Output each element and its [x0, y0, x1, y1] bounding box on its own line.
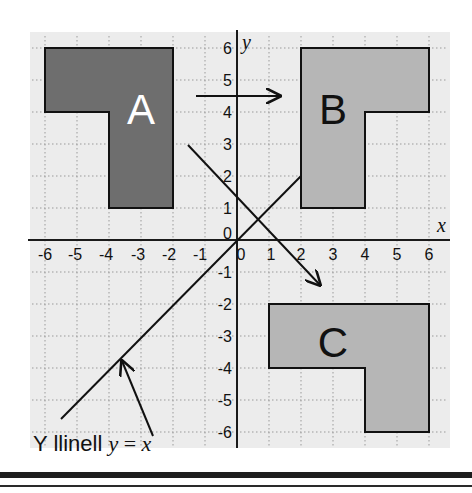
shape-c-label: C — [318, 319, 348, 366]
x-axis-label: x — [436, 214, 446, 236]
divider-thin — [0, 485, 472, 487]
y-axis-label: y — [240, 31, 251, 54]
svg-text:-6: -6 — [38, 246, 52, 263]
divider-thick — [0, 472, 472, 478]
svg-text:3: 3 — [329, 246, 338, 263]
svg-text:0: 0 — [223, 225, 232, 242]
coordinate-diagram: A B C x y -6 -5 -4 -3 -2 -1 0 1 2 3 4 5 … — [0, 0, 472, 493]
svg-text:-4: -4 — [218, 360, 232, 377]
svg-text:5: 5 — [393, 246, 402, 263]
svg-text:0: 0 — [237, 246, 246, 263]
svg-text:-5: -5 — [218, 392, 232, 409]
svg-text:1: 1 — [223, 200, 232, 217]
svg-text:6: 6 — [223, 40, 232, 57]
mirror-line-label-x: x — [141, 431, 152, 456]
svg-text:-2: -2 — [218, 296, 232, 313]
svg-text:-3: -3 — [131, 246, 145, 263]
svg-text:1: 1 — [267, 246, 276, 263]
svg-text:4: 4 — [223, 104, 232, 121]
shape-a-label: A — [127, 86, 155, 133]
svg-text:-5: -5 — [68, 246, 82, 263]
shape-b-label: B — [319, 86, 347, 133]
mirror-line-label-prefix: Y llinell — [33, 431, 108, 456]
svg-text:-4: -4 — [99, 246, 113, 263]
svg-text:-1: -1 — [218, 264, 232, 281]
svg-text:-6: -6 — [218, 424, 232, 441]
mirror-line-label: Y llinell y = x — [33, 431, 152, 456]
svg-text:-2: -2 — [162, 246, 176, 263]
mirror-line-label-y: y — [106, 431, 118, 456]
svg-text:-3: -3 — [218, 328, 232, 345]
svg-text:4: 4 — [361, 246, 370, 263]
svg-text:3: 3 — [223, 136, 232, 153]
mirror-line-label-eq: = — [118, 431, 141, 456]
diagram-canvas: A B C x y -6 -5 -4 -3 -2 -1 0 1 2 3 4 5 … — [0, 0, 472, 493]
svg-text:6: 6 — [425, 246, 434, 263]
svg-text:-1: -1 — [193, 246, 207, 263]
svg-text:5: 5 — [223, 72, 232, 89]
